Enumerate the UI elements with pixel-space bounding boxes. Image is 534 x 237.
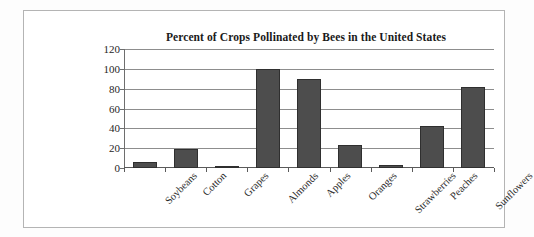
bar bbox=[174, 149, 198, 168]
bar-slot bbox=[371, 49, 412, 168]
bar bbox=[133, 162, 157, 168]
bar bbox=[297, 79, 321, 168]
y-axis-tick-label: 60 bbox=[80, 103, 120, 115]
x-axis-category-labels: SoybeansCottonGrapesAlmondsApplesOranges… bbox=[124, 170, 494, 237]
bar bbox=[215, 166, 239, 168]
bar-slot bbox=[247, 49, 288, 168]
x-axis-category-label: Apples bbox=[324, 170, 353, 199]
y-axis-tick-label: 40 bbox=[80, 122, 120, 134]
chart-frame: Percent of Crops Pollinated by Bees in t… bbox=[23, 10, 505, 228]
y-axis-tick-label: 0 bbox=[80, 162, 120, 174]
bar bbox=[338, 145, 362, 168]
bar-slot bbox=[412, 49, 453, 168]
x-axis-category-label: Oranges bbox=[366, 170, 399, 203]
y-axis-tick-label: 80 bbox=[80, 83, 120, 95]
bar-slot bbox=[453, 49, 494, 168]
chart-page: Percent of Crops Pollinated by Bees in t… bbox=[0, 0, 534, 237]
bar bbox=[420, 126, 444, 168]
y-axis-tick-labels: 020406080100120 bbox=[76, 49, 120, 168]
y-axis-tick-label: 20 bbox=[80, 142, 120, 154]
x-axis-tick-mark bbox=[494, 168, 495, 172]
chart-title: Percent of Crops Pollinated by Bees in t… bbox=[104, 31, 508, 43]
bar-slot bbox=[206, 49, 247, 168]
bar-slot bbox=[165, 49, 206, 168]
x-axis-category-label: Cotton bbox=[200, 170, 228, 198]
y-axis-tick-label: 100 bbox=[80, 63, 120, 75]
bar bbox=[461, 87, 485, 168]
bar-series bbox=[124, 49, 494, 168]
y-axis-tick-label: 120 bbox=[80, 43, 120, 55]
plot-area bbox=[124, 49, 494, 168]
bar-slot bbox=[288, 49, 329, 168]
x-axis-category-label: Grapes bbox=[241, 170, 270, 199]
bar bbox=[256, 69, 280, 168]
bar-slot bbox=[330, 49, 371, 168]
x-axis-category-label: Sunflowers bbox=[493, 170, 534, 212]
x-axis-category-label: Almonds bbox=[285, 170, 320, 205]
bar-slot bbox=[124, 49, 165, 168]
bar bbox=[379, 165, 403, 168]
x-axis-category-label: Soybeans bbox=[162, 170, 198, 206]
